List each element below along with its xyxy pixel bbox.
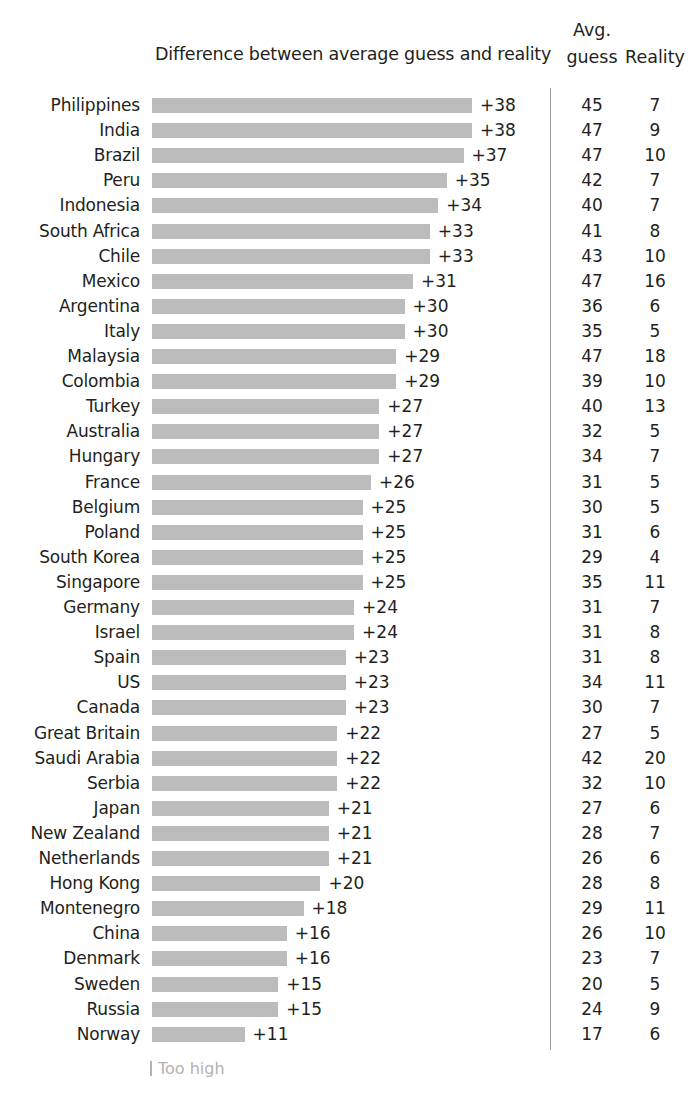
country-label: Peru xyxy=(0,168,140,193)
table-row: Singapore+253511 xyxy=(0,570,689,595)
avg-guess-value: 47 xyxy=(561,269,623,294)
bar xyxy=(152,625,354,640)
avg-guess-value: 36 xyxy=(561,294,623,319)
table-row: Saudi Arabia+224220 xyxy=(0,746,689,771)
table-row: Italy+30355 xyxy=(0,319,689,344)
country-label: Poland xyxy=(0,520,140,545)
table-row: Indonesia+34407 xyxy=(0,193,689,218)
reality-value: 6 xyxy=(624,796,686,821)
bar xyxy=(152,500,363,515)
bar-value-label: +20 xyxy=(328,871,364,896)
bar-value-label: +21 xyxy=(337,846,373,871)
country-label: India xyxy=(0,118,140,143)
country-label: Montenegro xyxy=(0,896,140,921)
table-row: Russia+15249 xyxy=(0,997,689,1022)
legend-too-high: Too high xyxy=(150,1057,225,1081)
bar xyxy=(152,349,396,364)
bar xyxy=(152,148,464,163)
reality-value: 11 xyxy=(624,570,686,595)
reality-value: 5 xyxy=(624,972,686,997)
bar-value-label: +31 xyxy=(421,269,457,294)
avg-guess-value: 27 xyxy=(561,796,623,821)
bar-value-label: +27 xyxy=(387,444,423,469)
bar-value-label: +33 xyxy=(438,244,474,269)
country-label: US xyxy=(0,670,140,695)
bar xyxy=(152,901,304,916)
bar-value-label: +11 xyxy=(253,1022,289,1047)
avg-guess-value: 43 xyxy=(561,244,623,269)
table-row: Belgium+25305 xyxy=(0,495,689,520)
bar xyxy=(152,776,337,791)
bar-value-label: +25 xyxy=(371,545,407,570)
bar xyxy=(152,274,413,289)
reality-value: 7 xyxy=(624,93,686,118)
table-row: Malaysia+294718 xyxy=(0,344,689,369)
country-label: Argentina xyxy=(0,294,140,319)
avg-guess-value: 34 xyxy=(561,444,623,469)
bar xyxy=(152,399,379,414)
reality-value: 5 xyxy=(624,721,686,746)
bar-value-label: +37 xyxy=(472,143,508,168)
bar-value-label: +26 xyxy=(379,470,415,495)
avg-guess-value: 42 xyxy=(561,168,623,193)
table-row: France+26315 xyxy=(0,470,689,495)
country-label: Australia xyxy=(0,419,140,444)
legend-tick-icon xyxy=(150,1061,152,1076)
table-row: Mexico+314716 xyxy=(0,269,689,294)
table-row: Australia+27325 xyxy=(0,419,689,444)
reality-value: 4 xyxy=(624,545,686,570)
bar-value-label: +25 xyxy=(371,520,407,545)
country-label: Denmark xyxy=(0,946,140,971)
table-row: Israel+24318 xyxy=(0,620,689,645)
avg-guess-value: 32 xyxy=(561,771,623,796)
avg-guess-value: 29 xyxy=(561,896,623,921)
country-label: Chile xyxy=(0,244,140,269)
country-label: Sweden xyxy=(0,972,140,997)
bar xyxy=(152,826,329,841)
bar-value-label: +30 xyxy=(413,294,449,319)
table-row: Japan+21276 xyxy=(0,796,689,821)
country-label: Israel xyxy=(0,620,140,645)
reality-value: 7 xyxy=(624,444,686,469)
country-label: Belgium xyxy=(0,495,140,520)
reality-value: 10 xyxy=(624,143,686,168)
reality-value: 7 xyxy=(624,695,686,720)
table-row: Norway+11176 xyxy=(0,1022,689,1047)
table-row: Poland+25316 xyxy=(0,520,689,545)
avg-guess-value: 29 xyxy=(561,545,623,570)
bar-value-label: +16 xyxy=(295,946,331,971)
table-row: Turkey+274013 xyxy=(0,394,689,419)
bar xyxy=(152,801,329,816)
reality-value: 5 xyxy=(624,319,686,344)
reality-value: 7 xyxy=(624,595,686,620)
table-row: Canada+23307 xyxy=(0,695,689,720)
table-row: China+162610 xyxy=(0,921,689,946)
reality-value: 10 xyxy=(624,771,686,796)
avg-guess-value: 23 xyxy=(561,946,623,971)
table-row: Chile+334310 xyxy=(0,244,689,269)
bar xyxy=(152,1002,278,1017)
avg-guess-value: 35 xyxy=(561,319,623,344)
avg-guess-value: 28 xyxy=(561,821,623,846)
avg-guess-value: 45 xyxy=(561,93,623,118)
country-label: Malaysia xyxy=(0,344,140,369)
avg-guess-value: 41 xyxy=(561,219,623,244)
bar xyxy=(152,98,472,113)
bar-value-label: +30 xyxy=(413,319,449,344)
bar-chart: Difference between average guess and rea… xyxy=(0,0,689,1108)
bar-value-label: +15 xyxy=(286,997,322,1022)
bar-value-label: +22 xyxy=(345,771,381,796)
reality-value: 5 xyxy=(624,470,686,495)
country-label: Saudi Arabia xyxy=(0,746,140,771)
country-label: South Africa xyxy=(0,219,140,244)
bar xyxy=(152,675,346,690)
avg-guess-value: 30 xyxy=(561,495,623,520)
table-row: New Zealand+21287 xyxy=(0,821,689,846)
table-row: Argentina+30366 xyxy=(0,294,689,319)
bar-value-label: +23 xyxy=(354,670,390,695)
bar xyxy=(152,926,287,941)
bar-value-label: +38 xyxy=(480,93,516,118)
bar-value-label: +24 xyxy=(362,595,398,620)
bar-value-label: +16 xyxy=(295,921,331,946)
bar-value-label: +35 xyxy=(455,168,491,193)
